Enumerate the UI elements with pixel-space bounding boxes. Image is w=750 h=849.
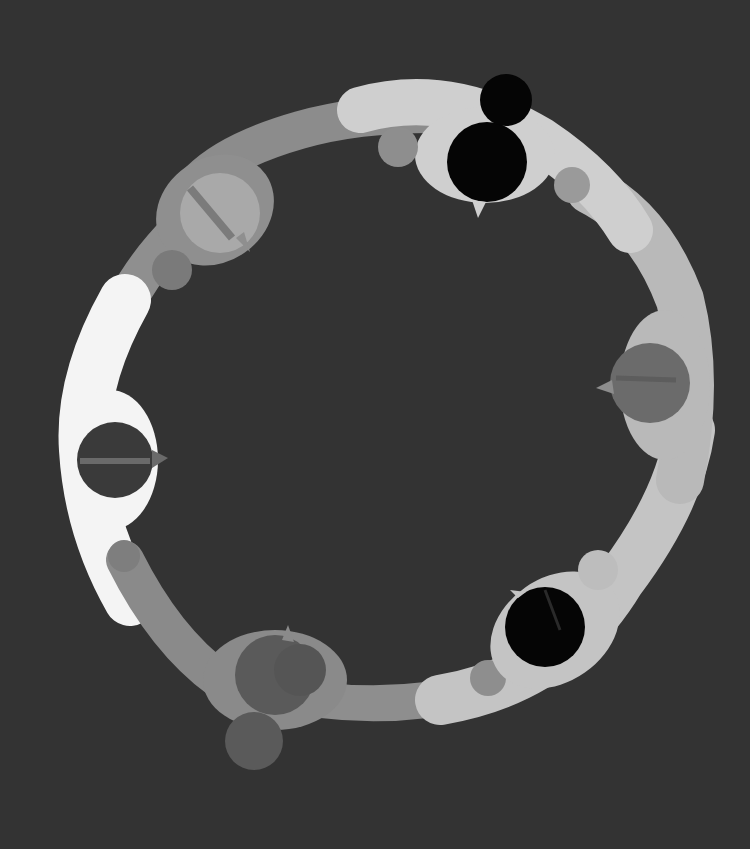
head xyxy=(610,343,690,423)
hair-part xyxy=(80,458,150,464)
hand xyxy=(378,127,418,167)
hand xyxy=(554,167,590,203)
extra-head xyxy=(480,74,532,126)
head xyxy=(180,173,260,253)
circle-of-figures-illustration xyxy=(0,0,750,849)
extra-head xyxy=(225,712,283,770)
head xyxy=(505,587,585,667)
hand xyxy=(152,250,192,290)
hair-part xyxy=(616,378,676,380)
hand xyxy=(108,540,140,572)
hair-bun xyxy=(274,644,326,696)
hand xyxy=(578,550,618,590)
head xyxy=(447,122,527,202)
